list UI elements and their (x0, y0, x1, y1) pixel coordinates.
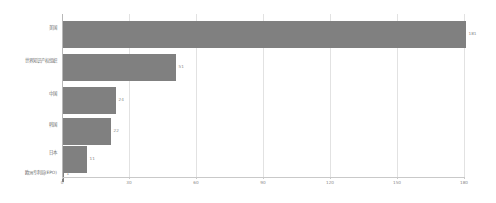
bar-row[interactable]: 181 (62, 21, 477, 48)
category-label-3: 韩国 (0, 123, 57, 127)
category-label-1: 世界知识产权组织 (0, 59, 57, 63)
bar-value-label: 181 (469, 32, 477, 36)
bar-row[interactable]: 22 (62, 118, 119, 145)
bar-value-label: 22 (114, 129, 119, 133)
y-axis-line (62, 14, 63, 177)
category-label-5: 欧洲专利局(EPO) (0, 171, 57, 175)
bar[interactable] (62, 87, 116, 114)
x-tick-mark (62, 177, 63, 179)
bar[interactable] (62, 21, 466, 48)
x-tick-mark (129, 177, 130, 179)
bar[interactable] (62, 54, 176, 81)
x-tick-label-6: 180 (460, 181, 468, 185)
x-tick-label-0: 0 (61, 181, 64, 185)
x-tick-mark (330, 177, 331, 179)
bar-row[interactable]: 51 (62, 54, 184, 81)
bar-row[interactable]: 24 (62, 87, 124, 114)
x-tick-label-2: 60 (193, 181, 198, 185)
x-tick-mark (196, 177, 197, 179)
category-label-4: 日本 (0, 151, 57, 155)
x-tick-label-4: 120 (326, 181, 334, 185)
bar-value-label: 11 (90, 157, 95, 161)
bar-value-label: 51 (179, 65, 184, 69)
x-tick-label-5: 150 (393, 181, 401, 185)
bar-chart: 181 51 24 22 11 1 美国 世界知识产权组织 中国 韩国 日本 欧… (0, 0, 496, 203)
plot-area: 181 51 24 22 11 1 (62, 14, 464, 177)
category-label-2: 中国 (0, 92, 57, 96)
category-label-0: 美国 (0, 26, 57, 30)
x-tick-label-3: 90 (260, 181, 265, 185)
x-tick-mark (464, 177, 465, 179)
x-tick-mark (263, 177, 264, 179)
bar-value-label: 24 (119, 98, 124, 102)
x-tick-mark (397, 177, 398, 179)
x-tick-label-1: 30 (126, 181, 131, 185)
bar-value-label: 1 (67, 172, 70, 176)
bar[interactable] (62, 118, 111, 145)
